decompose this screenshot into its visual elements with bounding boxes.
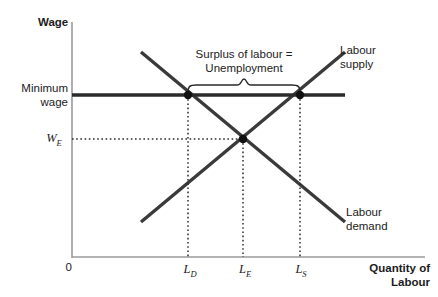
minimum-wage-label: Minimum wage bbox=[12, 82, 68, 109]
x-tick-label-le: LE bbox=[233, 262, 257, 279]
labour-demand-label: Labour demand bbox=[346, 206, 410, 233]
x-tick-label-ls: LS bbox=[289, 262, 313, 279]
labour-demanded-point-marker bbox=[184, 91, 192, 99]
x-axis-label: Quantity of Labour bbox=[336, 262, 430, 289]
equilibrium-wage-label: WE bbox=[40, 131, 68, 148]
x-tick-ls-sub: S bbox=[302, 269, 306, 279]
x-tick-le-main: L bbox=[239, 262, 246, 276]
surplus-annotation-text: Surplus of labour = Unemployment bbox=[174, 48, 314, 75]
surplus-brace bbox=[188, 79, 300, 93]
y-axis-label: Wage bbox=[38, 16, 98, 30]
x-tick-le-sub: E bbox=[246, 269, 251, 279]
labour-supplied-point-marker bbox=[296, 91, 304, 99]
labour-supply-label: Labour supply bbox=[340, 44, 404, 71]
x-tick-ld-sub: D bbox=[190, 269, 196, 279]
equilibrium-point-marker bbox=[239, 135, 247, 143]
labour-market-minimum-wage-diagram: Wage Quantity of Labour 0 Minimum wage W… bbox=[0, 0, 438, 297]
x-tick-label-ld: LD bbox=[178, 262, 202, 279]
origin-label: 0 bbox=[58, 261, 72, 275]
equilibrium-wage-label-sub: E bbox=[57, 138, 62, 148]
equilibrium-wage-label-main: W bbox=[46, 131, 56, 145]
